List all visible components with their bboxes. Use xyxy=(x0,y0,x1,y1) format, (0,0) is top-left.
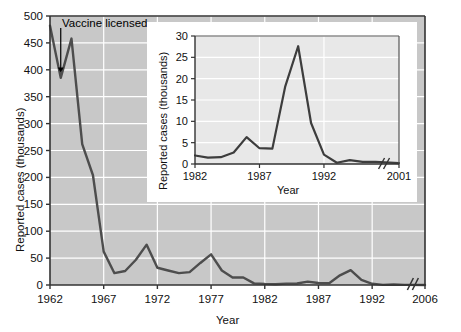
main-x-tick-label: 2006 xyxy=(412,293,438,305)
main-x-tick-label: 1972 xyxy=(145,293,171,305)
main-y-tick-label: 500 xyxy=(24,10,43,22)
inset-y-tick-label: 5 xyxy=(182,137,188,149)
inset-y-tick-label: 25 xyxy=(176,51,188,63)
main-x-tick-label: 1962 xyxy=(37,293,63,305)
main-y-tick-label: 0 xyxy=(37,279,43,291)
main-x-tick-label: 1977 xyxy=(198,293,224,305)
inset-plot-area: 0510152025301982198719922001 xyxy=(147,22,417,202)
main-y-tick-label: 50 xyxy=(30,252,43,264)
inset-x-axis-title: Year xyxy=(277,184,299,196)
main-y-axis-title: Reported cases (thousands) xyxy=(14,108,26,252)
main-y-tick-label: 400 xyxy=(24,64,43,76)
main-y-tick-label: 250 xyxy=(24,145,43,157)
inset-x-tick-label: 1992 xyxy=(312,170,336,182)
main-y-tick-label: 150 xyxy=(24,198,43,210)
inset-y-tick-label: 10 xyxy=(176,115,188,127)
main-y-tick-label: 100 xyxy=(24,225,43,237)
inset-y-axis-title: Reported cases (thousands) xyxy=(157,52,169,190)
main-y-tick-label: 200 xyxy=(24,171,43,183)
inset-y-tick-label: 15 xyxy=(176,94,188,106)
inset-y-tick-label: 20 xyxy=(176,73,188,85)
main-x-tick-label: 1967 xyxy=(91,293,117,305)
inset-y-tick-label: 30 xyxy=(176,30,188,42)
main-x-tick-label: 1982 xyxy=(252,293,278,305)
vaccine-licensed-annotation: Vaccine licensed xyxy=(62,17,147,29)
inset-y-tick-label: 0 xyxy=(182,158,188,170)
main-y-tick-label: 300 xyxy=(24,118,43,130)
main-y-tick-label: 350 xyxy=(24,91,43,103)
inset-x-tick-label: 1982 xyxy=(183,170,207,182)
inset-chart: 0510152025301982198719922001 Reported ca… xyxy=(147,22,417,202)
inset-x-tick-label: 2001 xyxy=(387,170,411,182)
main-x-tick-label: 1987 xyxy=(306,293,332,305)
main-x-axis-title: Year xyxy=(216,314,239,326)
inset-x-tick-label: 1987 xyxy=(247,170,271,182)
main-x-tick-label: 1992 xyxy=(359,293,385,305)
main-y-tick-label: 450 xyxy=(24,37,43,49)
